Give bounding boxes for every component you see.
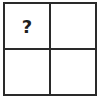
- grid-cell-bottom-right: [50, 49, 95, 94]
- grid-cell-top-right: [50, 4, 95, 49]
- puzzle-grid: ?: [3, 2, 97, 96]
- grid-cell-bottom-left: [5, 49, 50, 94]
- grid-cell-top-left: ?: [5, 4, 50, 49]
